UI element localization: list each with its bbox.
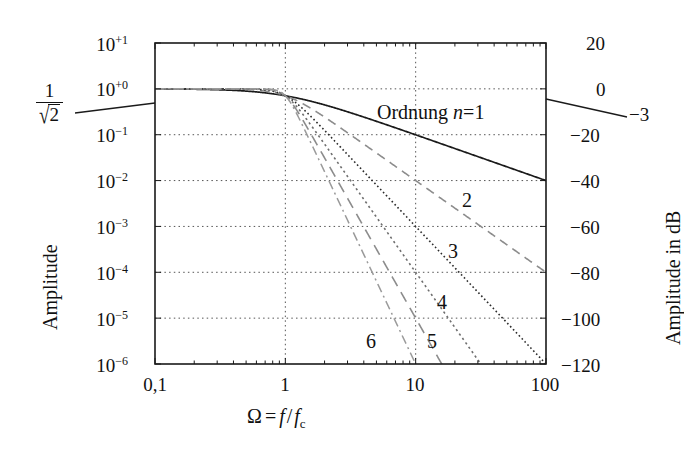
annotation-leader-lines xyxy=(75,99,627,117)
y-tick-label: 10−1 xyxy=(62,125,128,145)
leader-line-minus3db xyxy=(546,99,627,117)
curve-order-5 xyxy=(155,89,546,419)
y-tick-label: 10−5 xyxy=(62,309,128,329)
db-tick-label: −60 xyxy=(570,218,600,237)
x-axis-title-omega: Ω xyxy=(247,405,262,427)
curve-order-3 xyxy=(155,89,546,364)
y-tick-label: 10−6 xyxy=(62,355,128,375)
y-tick-label: 10−3 xyxy=(62,217,128,237)
curve-label-order-5: 5 xyxy=(427,331,437,351)
x-tick-label: 1 xyxy=(255,375,315,394)
y-tick-label: 10+1 xyxy=(62,34,128,54)
db-tick-label: −100 xyxy=(561,310,600,329)
db-tick-label: −120 xyxy=(561,356,600,375)
db-tick-label: −20 xyxy=(570,126,600,145)
x-axis-title-f: f xyxy=(279,405,285,427)
cutoff-amplitude-annotation: 1 √2 xyxy=(36,81,63,125)
curve-label-order-3: 3 xyxy=(448,241,458,261)
curve-label-order-4: 4 xyxy=(437,292,447,312)
x-axis-title-slash: / xyxy=(285,405,295,427)
y-tick-exponent: −1 xyxy=(115,124,128,138)
curve-label-order-1: Ordnung n=1 xyxy=(377,102,484,122)
curve-label-order-2: 2 xyxy=(462,190,472,210)
x-tick-label: 100 xyxy=(515,375,575,394)
x-axis-title-equals: = xyxy=(262,405,279,427)
ordnung-value: 1 xyxy=(474,101,484,123)
y-tick-label: 10−2 xyxy=(62,171,128,191)
cutoff-fraction: 1 √2 xyxy=(36,81,63,125)
y-tick-exponent: −5 xyxy=(115,308,128,322)
x-axis-title: Ω=f/fc xyxy=(247,406,306,430)
db-tick-label: −40 xyxy=(570,172,600,191)
y-tick-exponent: −4 xyxy=(115,262,128,276)
x-axis-title-fc-subscript: c xyxy=(300,416,306,431)
y-tick-exponent: −6 xyxy=(115,354,128,368)
cutoff-numerator: 1 xyxy=(36,81,63,101)
ordnung-n-symbol: n xyxy=(453,101,463,123)
x-tick-label: 10 xyxy=(385,375,445,394)
minus-3db-annotation: −3 xyxy=(629,105,649,124)
y2-axis-title: Amplitude in dB xyxy=(663,211,683,345)
db-tick-label: 0 xyxy=(596,80,606,99)
y-tick-exponent: −3 xyxy=(115,216,128,230)
x-tick-label: 0,1 xyxy=(125,375,185,394)
y-axis-title: Amplitude xyxy=(40,244,60,330)
db-tick-label: 20 xyxy=(586,34,605,53)
ordnung-equals: = xyxy=(463,101,474,123)
curve-order-6 xyxy=(155,89,546,419)
y-tick-exponent: +0 xyxy=(115,78,128,92)
sqrt-icon: √2 xyxy=(39,104,60,125)
sqrt-radicand: 2 xyxy=(48,104,60,125)
curve-order-4 xyxy=(155,89,546,419)
curve-label-order-6: 6 xyxy=(366,331,376,351)
leader-line-cutoff xyxy=(75,103,155,113)
curve-order-1 xyxy=(155,89,546,181)
y-tick-label: 10−4 xyxy=(62,263,128,283)
y-tick-label: 10+0 xyxy=(62,79,128,99)
cutoff-denominator: √2 xyxy=(36,104,63,125)
ordnung-word: Ordnung xyxy=(377,101,448,123)
curve-group xyxy=(155,89,546,419)
y-tick-exponent: +1 xyxy=(115,33,128,47)
db-tick-label: −80 xyxy=(570,264,600,283)
y-tick-exponent: −2 xyxy=(115,170,128,184)
